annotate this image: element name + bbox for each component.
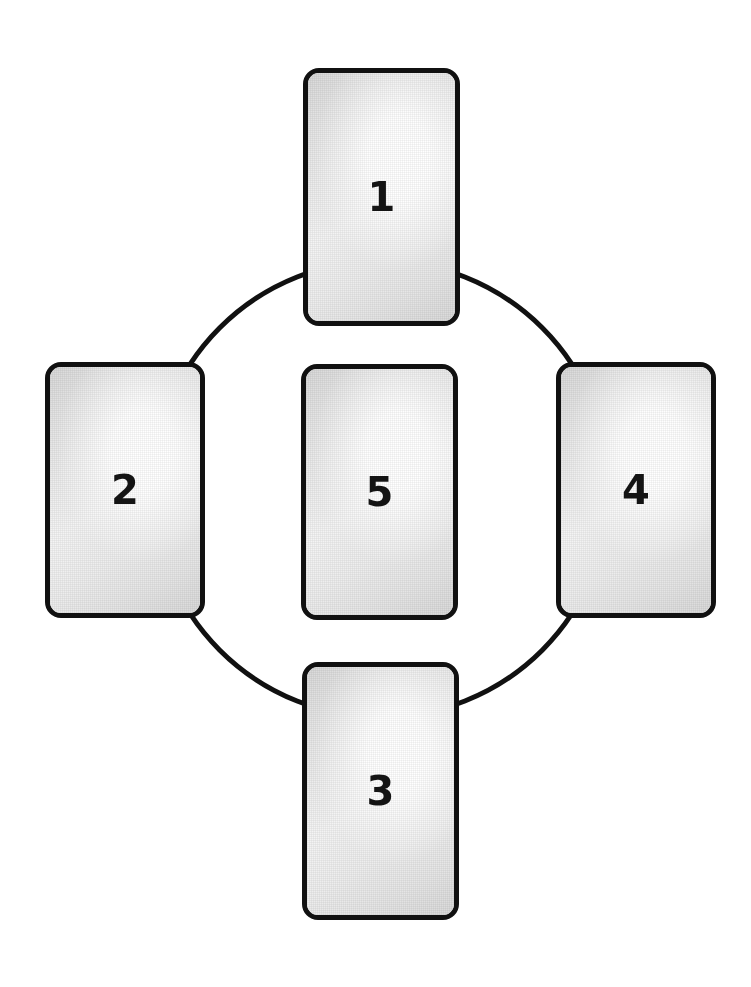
card-3[interactable]: 3	[302, 662, 459, 920]
card-1-label: 1	[368, 177, 396, 217]
card-1[interactable]: 1	[303, 68, 460, 326]
diagram-canvas: 1 2 5 4 3	[0, 0, 751, 987]
card-3-label: 3	[367, 771, 395, 811]
card-5-label: 5	[366, 472, 394, 512]
card-4-label: 4	[622, 470, 650, 510]
card-2-label: 2	[111, 470, 139, 510]
card-4[interactable]: 4	[556, 362, 716, 618]
card-2[interactable]: 2	[45, 362, 205, 618]
card-5[interactable]: 5	[301, 364, 458, 620]
